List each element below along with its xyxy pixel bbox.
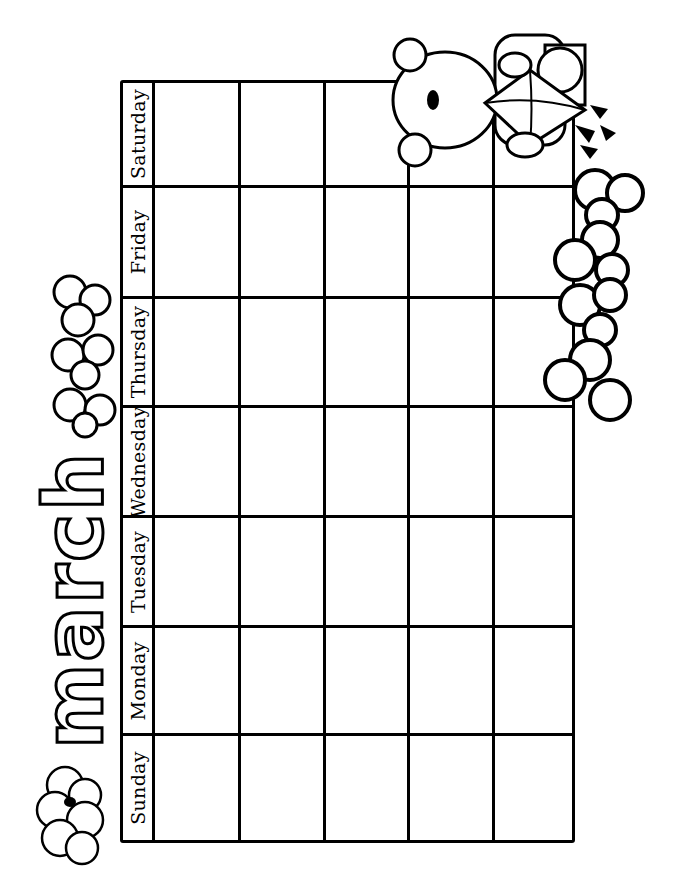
day-header-saturday: Saturday — [123, 83, 155, 188]
day-cell[interactable] — [326, 299, 410, 408]
month-title-text: march — [26, 451, 121, 749]
bear-with-kite-icon — [385, 25, 635, 175]
day-cell[interactable] — [326, 188, 410, 299]
day-cell[interactable] — [241, 299, 326, 408]
day-header-label: Monday — [127, 641, 149, 720]
day-header-monday: Monday — [123, 628, 155, 736]
day-header-tuesday: Tuesday — [123, 518, 155, 628]
day-cell[interactable] — [241, 736, 326, 840]
day-cell[interactable] — [410, 408, 495, 518]
day-cell[interactable] — [495, 628, 572, 736]
day-cell[interactable] — [155, 518, 241, 628]
day-header-label: Thursday — [127, 306, 149, 399]
day-cell[interactable] — [410, 628, 495, 736]
calendar-page: march SaturdayFridayThursdayWednesdayTue… — [0, 0, 674, 895]
day-cell[interactable] — [410, 518, 495, 628]
day-cell[interactable] — [326, 408, 410, 518]
day-cell[interactable] — [155, 188, 241, 299]
day-header-sunday: Sunday — [123, 736, 155, 840]
calendar-grid: SaturdayFridayThursdayWednesdayTuesdayMo… — [120, 80, 575, 843]
day-cell[interactable] — [410, 736, 495, 840]
day-header-thursday: Thursday — [123, 299, 155, 408]
day-cell[interactable] — [241, 83, 326, 188]
clover-cluster-right-icon — [540, 165, 650, 425]
day-cell[interactable] — [326, 628, 410, 736]
month-title: march — [28, 470, 118, 730]
day-cell[interactable] — [495, 736, 572, 840]
day-cell[interactable] — [241, 628, 326, 736]
clover-cluster-top-icon — [40, 270, 120, 440]
day-header-label: Wednesday — [127, 406, 149, 518]
day-cell[interactable] — [410, 299, 495, 408]
day-header-label: Friday — [127, 210, 149, 274]
cloud-with-bee-icon — [30, 760, 110, 870]
day-header-friday: Friday — [123, 188, 155, 299]
day-cell[interactable] — [155, 299, 241, 408]
day-header-label: Tuesday — [127, 530, 149, 612]
day-cell[interactable] — [326, 736, 410, 840]
day-cell[interactable] — [410, 188, 495, 299]
day-cell[interactable] — [241, 408, 326, 518]
day-header-label: Sunday — [127, 751, 149, 825]
day-header-label: Saturday — [127, 89, 149, 179]
day-cell[interactable] — [155, 408, 241, 518]
day-cell[interactable] — [155, 736, 241, 840]
day-cell[interactable] — [326, 518, 410, 628]
day-cell[interactable] — [241, 188, 326, 299]
day-cell[interactable] — [155, 628, 241, 736]
day-header-wednesday: Wednesday — [123, 408, 155, 518]
day-cell[interactable] — [495, 518, 572, 628]
day-cell[interactable] — [155, 83, 241, 188]
day-cell[interactable] — [241, 518, 326, 628]
